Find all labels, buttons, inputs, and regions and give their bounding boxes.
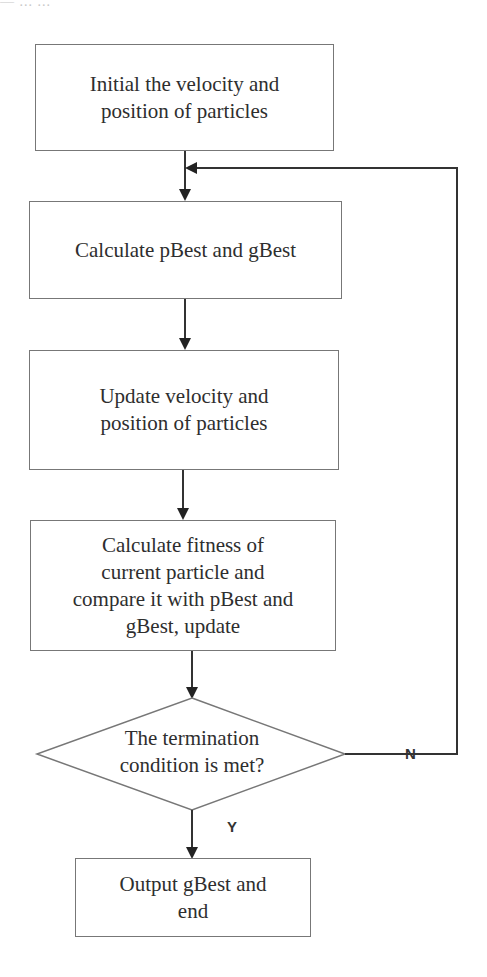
node-init-particles: Initial the velocity and position of par… xyxy=(35,44,334,151)
node-output-gbest-end: Output gBest and end xyxy=(75,858,311,937)
node-calculate-fitness: Calculate fitness of current particle an… xyxy=(30,520,336,651)
node-text-line: compare it with pBest and xyxy=(73,586,293,613)
decision-text: The termination condition is met? xyxy=(82,725,302,779)
node-text-line: Output gBest and xyxy=(120,871,267,898)
node-update-velocity-position: Update velocity and position of particle… xyxy=(29,350,339,470)
node-text-line: current particle and xyxy=(73,559,293,586)
node-text-line: Initial the velocity and xyxy=(90,71,280,98)
node-text-line: position of particles xyxy=(99,410,268,437)
node-text-line: gBest, update xyxy=(73,613,293,640)
node-text-line: Update velocity and xyxy=(99,383,268,410)
node-text-line: condition is met? xyxy=(82,752,302,779)
edge-label-yes: Y xyxy=(227,818,237,835)
node-text-line: end xyxy=(120,898,267,925)
edge-label-no: N xyxy=(405,745,416,762)
node-text-line: position of particles xyxy=(90,98,280,125)
node-calculate-pbest-gbest: Calculate pBest and gBest xyxy=(29,201,342,299)
node-text-line: Calculate fitness of xyxy=(73,532,293,559)
node-text-line: The termination xyxy=(82,725,302,752)
node-text-line: Calculate pBest and gBest xyxy=(75,237,296,264)
